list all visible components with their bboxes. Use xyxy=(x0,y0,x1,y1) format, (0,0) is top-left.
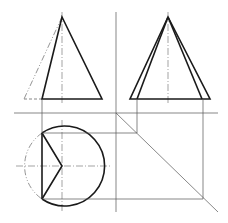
side-view xyxy=(130,12,210,199)
front-phantom-edge xyxy=(24,17,62,99)
top-view xyxy=(16,120,203,213)
projection-drawing xyxy=(0,0,228,223)
front-view xyxy=(24,12,102,133)
side-inner-right-edge xyxy=(168,17,202,99)
front-cut-outline xyxy=(42,17,102,99)
side-inner-left-edge xyxy=(137,17,168,99)
